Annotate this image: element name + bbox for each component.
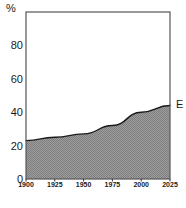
x-tick-label: 1975: [105, 181, 121, 189]
series-end-label-E: E: [176, 99, 186, 110]
plot-area: [0, 0, 186, 208]
x-tick-label: 2025: [162, 181, 178, 189]
area-chart: % 806040200 E 190019251950197520002025: [0, 0, 186, 208]
x-tick-label: 1925: [47, 181, 63, 189]
x-tick-label: 2000: [133, 181, 149, 189]
x-axis-tick-labels: 190019251950197520002025: [0, 181, 186, 197]
x-tick-label: 1900: [18, 181, 34, 189]
x-tick-label: 1950: [76, 181, 92, 189]
